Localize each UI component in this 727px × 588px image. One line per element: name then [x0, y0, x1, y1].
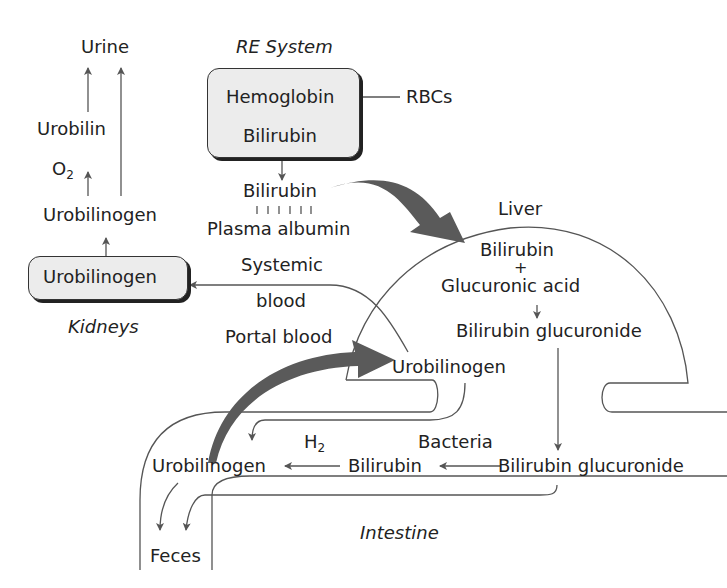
intestine-label: Intestine: [360, 524, 439, 542]
big-arrow-portal: [208, 340, 395, 463]
urobilinogen-upper-label: Urobilinogen: [43, 206, 157, 224]
bilirubin-plasma-label: Bilirubin: [243, 182, 317, 200]
o2-label: O2: [52, 160, 74, 181]
systemic-label: Systemic: [241, 256, 323, 274]
portal-blood-label: Portal blood: [225, 328, 332, 346]
urobilin-label: Urobilin: [37, 120, 106, 138]
bacteria-label: Bacteria: [418, 433, 493, 451]
blood-label: blood: [256, 292, 306, 310]
intestine-glucuronide-label: Bilirubin glucuronide: [498, 457, 684, 475]
urine-label: Urine: [81, 38, 129, 56]
liver-urobilinogen-label: Urobilinogen: [392, 358, 506, 376]
intestine-urobilinogen-label: Urobilinogen: [152, 457, 266, 475]
intestine-bilirubin-label: Bilirubin: [348, 457, 422, 475]
bilirubin-re-label: Bilirubin: [243, 127, 317, 145]
liver-glucuronide-label: Bilirubin glucuronide: [456, 322, 642, 340]
plus-sign: +: [514, 260, 527, 276]
h2-label: H2: [304, 433, 325, 454]
kidney-urobilinogen-label: Urobilinogen: [43, 268, 157, 286]
hemoglobin-label: Hemoglobin: [226, 88, 334, 106]
plasma-albumin-label: Plasma albumin: [207, 220, 350, 238]
rbcs-label: RBCs: [406, 88, 453, 106]
kidneys-label: Kidneys: [68, 318, 139, 336]
liver-bilirubin-label: Bilirubin: [480, 241, 554, 259]
liver-label: Liver: [498, 200, 542, 218]
glucuronic-acid-label: Glucuronic acid: [441, 277, 580, 295]
feces-label: Feces: [150, 547, 201, 565]
re-system-title: RE System: [236, 38, 333, 56]
